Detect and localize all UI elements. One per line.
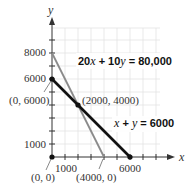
grid [52, 28, 160, 157]
y-tick-8000: 8000 [24, 46, 47, 58]
y-axis-arrow-icon [49, 17, 55, 25]
x-tick-6000: 6000 [119, 162, 142, 174]
point-label-0-6000: (0, 6000) [9, 94, 50, 107]
leader-4000-0 [99, 159, 103, 169]
point-label-2000-4000: (2000, 4000) [82, 94, 139, 107]
point-origin [49, 154, 54, 159]
y-tick-6000: 6000 [24, 72, 47, 84]
chart: y x 8000 6000 1000 1000 6000 (0, 0) (0, … [0, 0, 192, 193]
leader-origin [46, 159, 51, 170]
equation-label-line2: x + y = 6000 [113, 116, 174, 130]
point-label-4000-0: (4000, 0) [76, 171, 117, 184]
x-axis-arrow-icon [167, 154, 175, 160]
y-axis-label: y [47, 3, 54, 17]
point-2000-4000 [75, 102, 80, 107]
point-6000-0 [127, 154, 132, 159]
point-label-origin: (0, 0) [31, 171, 55, 184]
y-tick-1000: 1000 [24, 138, 47, 150]
x-axis-label: x [178, 150, 185, 164]
point-0-6000 [49, 76, 54, 81]
equation-label-line1: 20x + 10y = 80,000 [78, 54, 172, 68]
x-tick-1000: 1000 [55, 162, 78, 174]
